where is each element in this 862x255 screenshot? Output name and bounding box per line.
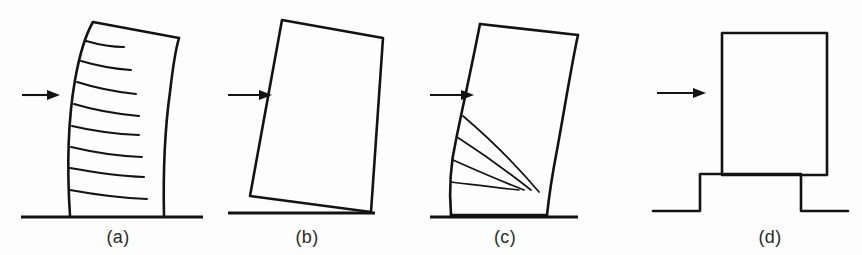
panel-a-crack-6 bbox=[71, 147, 142, 157]
panel-a-crack-4 bbox=[74, 104, 139, 116]
panel-a-left-edge bbox=[68, 22, 93, 216]
panel-c-left-edge bbox=[450, 24, 480, 215]
panel-b-load-arrow-icon bbox=[228, 90, 272, 100]
figure-canvas: (a) (b) (c) bbox=[0, 0, 862, 255]
panel-a-crack-3 bbox=[77, 82, 136, 94]
panel-a-group: (a) bbox=[21, 22, 203, 247]
panel-a-crack-5 bbox=[72, 126, 139, 135]
panel-c-arrow-head bbox=[461, 90, 474, 100]
panel-a-load-arrow-icon bbox=[22, 90, 60, 100]
panel-b-block-outline bbox=[250, 20, 383, 212]
panel-a-crack-8 bbox=[70, 190, 147, 199]
panel-a-crack-2 bbox=[81, 61, 131, 70]
panel-c-top-edge bbox=[480, 24, 578, 35]
failure-modes-figure: (a) (b) (c) bbox=[0, 0, 862, 255]
panel-a-top-edge bbox=[93, 22, 179, 38]
panel-a-right-edge bbox=[164, 38, 179, 216]
panel-b-caption: (b) bbox=[296, 227, 319, 247]
panel-a-arrow-head bbox=[47, 90, 60, 100]
panel-c-caption: (c) bbox=[494, 227, 516, 247]
panel-b-group: (b) bbox=[228, 20, 383, 247]
panel-d-base-step bbox=[653, 174, 848, 211]
panel-d-block-outline bbox=[722, 33, 827, 175]
panel-d-load-arrow-icon bbox=[657, 88, 706, 98]
panel-c-group: (c) bbox=[430, 24, 578, 247]
panel-d-group: (d) bbox=[653, 33, 848, 247]
panel-d-arrow-head bbox=[693, 88, 706, 98]
panel-a-crack-7 bbox=[70, 168, 144, 177]
panel-a-caption: (a) bbox=[107, 227, 130, 247]
panel-d-caption: (d) bbox=[759, 227, 782, 247]
panel-c-right-edge bbox=[547, 35, 578, 215]
panel-a-crack-1 bbox=[86, 41, 124, 47]
